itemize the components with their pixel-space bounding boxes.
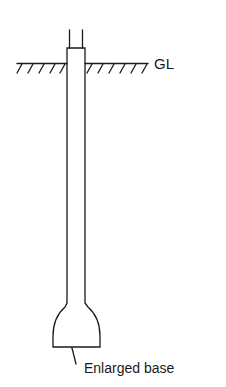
base-leader-line xyxy=(72,348,76,364)
pile-diagram: GL Enlarged base xyxy=(0,0,226,387)
soil-hatch-left xyxy=(17,64,65,73)
enlarged-base-label: Enlarged base xyxy=(84,360,175,376)
pile-outline xyxy=(53,48,100,347)
soil-hatch-right xyxy=(87,64,147,73)
gl-label: GL xyxy=(154,55,174,72)
